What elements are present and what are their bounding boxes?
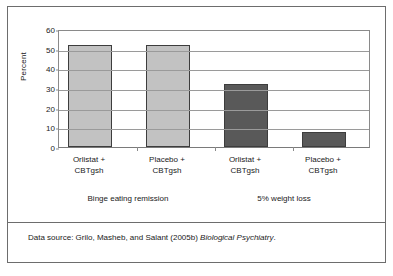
category-label: Placebo +CBTgsh xyxy=(127,154,207,176)
plot-area: 0102030405060 xyxy=(58,30,370,148)
category-label-line2: CBTgsh xyxy=(205,165,285,176)
x-tick-mark xyxy=(215,147,216,151)
category-label-line1: Orlistat + xyxy=(205,154,285,165)
y-tick-mark xyxy=(56,149,59,150)
bar xyxy=(146,45,190,147)
y-tick-mark xyxy=(56,90,59,91)
category-label-line1: Orlistat + xyxy=(49,154,129,165)
source-divider xyxy=(8,222,385,223)
figure-panel: Percent 0102030405060 Orlistat +CBTgshPl… xyxy=(0,0,393,276)
category-label-line1: Placebo + xyxy=(283,154,363,165)
source-suffix: . xyxy=(273,233,275,242)
category-label: Orlistat +CBTgsh xyxy=(205,154,285,176)
source-journal: Biological Psychiatry xyxy=(200,233,273,242)
y-tick-label: 60 xyxy=(46,27,55,35)
y-tick-mark xyxy=(56,109,59,110)
category-label-line2: CBTgsh xyxy=(127,165,207,176)
bar xyxy=(224,84,268,147)
category-label-line2: CBTgsh xyxy=(49,165,129,176)
y-tick-label: 50 xyxy=(46,47,55,55)
y-tick-label: 0 xyxy=(51,145,55,153)
bar xyxy=(302,132,346,147)
group-label: Binge eating remission xyxy=(58,194,198,204)
x-tick-mark xyxy=(137,147,138,151)
y-tick-mark xyxy=(56,129,59,130)
y-tick-label: 20 xyxy=(46,106,55,114)
gridline xyxy=(59,110,369,111)
category-label-line1: Placebo + xyxy=(127,154,207,165)
y-axis-title: Percent xyxy=(19,27,28,107)
y-tick-label: 10 xyxy=(46,125,55,133)
chart-region: Percent 0102030405060 Orlistat +CBTgshPl… xyxy=(7,6,386,216)
y-tick-mark xyxy=(56,31,59,32)
gridline xyxy=(59,70,369,71)
source-note: Data source: Grilo, Masheb, and Salant (… xyxy=(28,232,276,243)
y-tick-label: 30 xyxy=(46,86,55,94)
gridline xyxy=(59,90,369,91)
group-axis-labels: Binge eating remission5% weight loss xyxy=(58,194,370,208)
bar xyxy=(68,45,112,147)
y-tick-label: 40 xyxy=(46,66,55,74)
group-label: 5% weight loss xyxy=(214,194,354,204)
category-axis-labels: Orlistat +CBTgshPlacebo +CBTgshOrlistat … xyxy=(58,154,370,180)
gridline xyxy=(59,129,369,130)
gridline xyxy=(59,51,369,52)
category-label: Orlistat +CBTgsh xyxy=(49,154,129,176)
category-label-line2: CBTgsh xyxy=(283,165,363,176)
x-tick-mark xyxy=(293,147,294,151)
source-prefix: Data source: Grilo, Masheb, and Salant (… xyxy=(28,233,200,242)
y-tick-mark xyxy=(56,50,59,51)
category-label: Placebo +CBTgsh xyxy=(283,154,363,176)
y-tick-mark xyxy=(56,70,59,71)
